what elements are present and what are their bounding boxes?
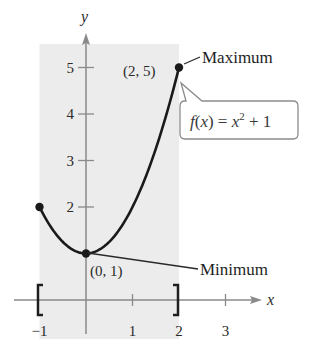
- min-point-label: (0, 1): [90, 263, 123, 280]
- minimum-annotation: Minimum: [200, 260, 268, 279]
- x-axis-label: x: [266, 291, 274, 308]
- y-tick-label: 2: [67, 199, 75, 215]
- y-tick-label: 5: [67, 60, 75, 76]
- maximum-leader-line: [184, 57, 200, 64]
- y-tick-label: 3: [67, 153, 75, 169]
- y-tick-label: 4: [67, 106, 75, 122]
- max-point-label: (2, 5): [123, 63, 156, 80]
- formula-text: f(x) = x2 + 1: [190, 110, 271, 131]
- function-graph: −1123 2345 y x (2, 5) (0, 1) Maximum Min…: [0, 0, 319, 344]
- y-axis-label: y: [79, 8, 89, 26]
- x-tick-label: 2: [175, 323, 183, 339]
- data-point: [35, 203, 43, 211]
- x-tick-label: 1: [129, 323, 137, 339]
- maximum-annotation: Maximum: [202, 48, 273, 67]
- data-point: [175, 63, 183, 71]
- x-tick-label: −1: [32, 323, 48, 339]
- formula-callout: f(x) = x2 + 1: [180, 83, 298, 139]
- x-tick-label: 3: [222, 323, 230, 339]
- domain-shaded-region: [40, 44, 180, 339]
